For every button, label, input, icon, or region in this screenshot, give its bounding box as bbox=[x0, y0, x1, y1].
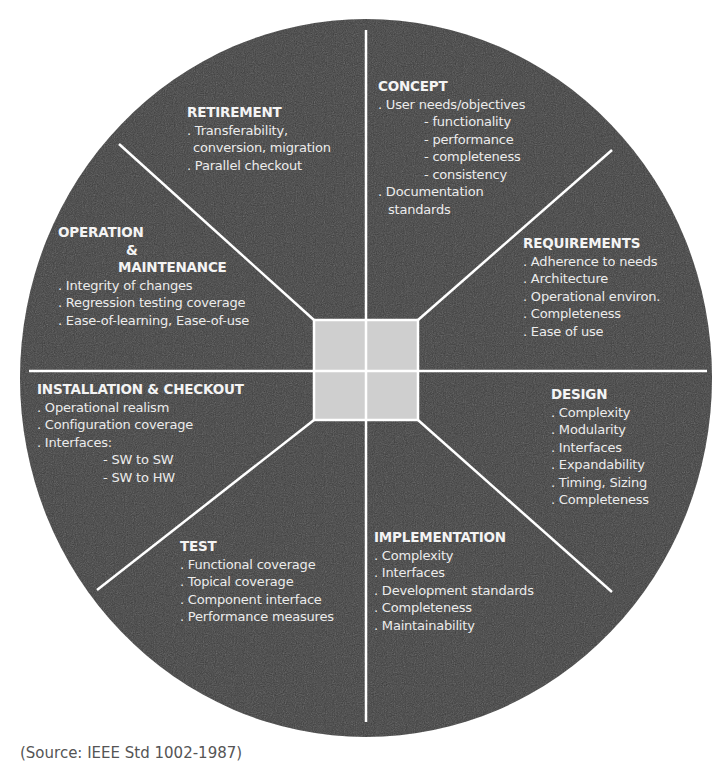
sector-design: DESIGN . Complexity . Modularity . Inter… bbox=[551, 386, 649, 509]
sector-subitem: - functionality bbox=[378, 113, 525, 131]
sector-item: . Architecture bbox=[523, 270, 660, 288]
sector-title-line3: MAINTENANCE bbox=[58, 259, 249, 277]
sector-subitem: - performance bbox=[378, 131, 525, 149]
figure-caption: (Source: IEEE Std 1002-1987) bbox=[20, 744, 720, 762]
sector-item: . User needs/objectives bbox=[378, 96, 525, 114]
sector-item: . Completeness bbox=[374, 599, 534, 617]
sector-title-line2: & bbox=[58, 242, 249, 260]
sector-operation-maintenance: OPERATION & MAINTENANCE . Integrity of c… bbox=[58, 224, 249, 329]
sector-item: . Functional coverage bbox=[180, 556, 334, 574]
sector-item: . Operational environ. bbox=[523, 288, 660, 306]
sector-item: . Performance measures bbox=[180, 608, 334, 626]
sector-item: . Completeness bbox=[523, 305, 660, 323]
sector-item: . Regression testing coverage bbox=[58, 294, 249, 312]
sector-item-continued: standards bbox=[378, 201, 525, 219]
sector-item: . Development standards bbox=[374, 582, 534, 600]
sector-item: . Operational realism bbox=[37, 399, 244, 417]
sector-requirements: REQUIREMENTS . Adherence to needs . Arch… bbox=[523, 235, 660, 340]
sector-retirement: RETIREMENT . Transferability, conversion… bbox=[187, 104, 331, 174]
sector-item: . Timing, Sizing bbox=[551, 474, 649, 492]
sector-title: CONCEPT bbox=[378, 78, 448, 94]
sector-item: . Transferability, bbox=[187, 122, 331, 140]
sector-item: . Interfaces bbox=[551, 439, 649, 457]
sector-item: . Maintainability bbox=[374, 617, 534, 635]
sector-item: . Complexity bbox=[374, 547, 534, 565]
sector-item: . Complexity bbox=[551, 404, 649, 422]
sector-item: . Configuration coverage bbox=[37, 416, 244, 434]
sector-item: . Topical coverage bbox=[180, 573, 334, 591]
sector-item: . Parallel checkout bbox=[187, 157, 331, 175]
sector-item: . Integrity of changes bbox=[58, 277, 249, 295]
sector-item: . Completeness bbox=[551, 491, 649, 509]
sector-test: TEST . Functional coverage . Topical cov… bbox=[180, 538, 334, 626]
sector-title: INSTALLATION & CHECKOUT bbox=[37, 381, 244, 397]
sector-item: . Modularity bbox=[551, 421, 649, 439]
sector-subitem: - SW to SW bbox=[37, 451, 244, 469]
sector-title: RETIREMENT bbox=[187, 104, 282, 120]
sector-subitem: - SW to HW bbox=[37, 469, 244, 487]
sector-implementation: IMPLEMENTATION . Complexity . Interfaces… bbox=[374, 529, 534, 634]
sector-item: . Component interface bbox=[180, 591, 334, 609]
sector-title: TEST bbox=[180, 538, 217, 554]
sector-item-continued: conversion, migration bbox=[187, 139, 331, 157]
sector-item: . Ease of use bbox=[523, 323, 660, 341]
sector-item: . Interfaces: bbox=[37, 434, 244, 452]
sector-item: . Ease-of-learning, Ease-of-use bbox=[58, 312, 249, 330]
sector-subitem: - consistency bbox=[378, 166, 525, 184]
sector-title: DESIGN bbox=[551, 386, 607, 402]
sector-title: REQUIREMENTS bbox=[523, 235, 640, 251]
sector-subitem: - completeness bbox=[378, 148, 525, 166]
sector-item: . Interfaces bbox=[374, 564, 534, 582]
sector-item: . Adherence to needs bbox=[523, 253, 660, 271]
sector-title: IMPLEMENTATION bbox=[374, 529, 506, 545]
sector-item: . Expandability bbox=[551, 456, 649, 474]
sector-item: . Documentation bbox=[378, 183, 525, 201]
sector-installation-checkout: INSTALLATION & CHECKOUT . Operational re… bbox=[37, 381, 244, 486]
sector-concept: CONCEPT . User needs/objectives - functi… bbox=[378, 78, 525, 218]
sector-title-line1: OPERATION bbox=[58, 224, 249, 242]
